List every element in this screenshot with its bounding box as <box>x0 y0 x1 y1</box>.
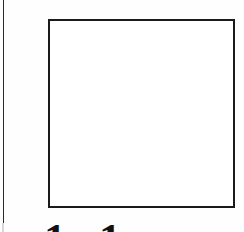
scan-artifact-speckle <box>2 223 4 232</box>
clipped-glyph: 1 <box>44 220 66 232</box>
scanned-page: 1 1 <box>0 0 244 232</box>
empty-figure-box <box>48 19 235 208</box>
clipped-glyph: 1 <box>99 220 121 232</box>
left-margin-rule <box>3 0 4 232</box>
bottom-clipped-caption: 1 1 <box>0 220 244 232</box>
